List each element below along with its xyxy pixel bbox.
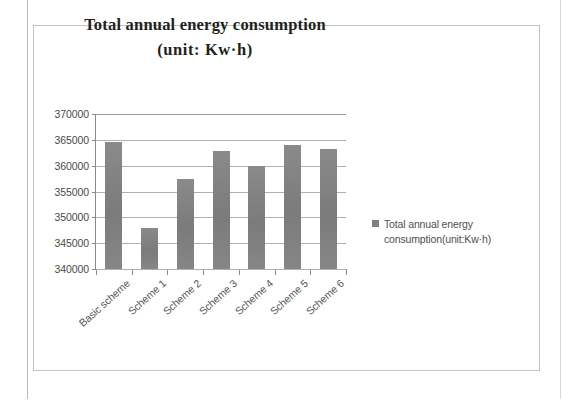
x-axis-tick bbox=[96, 270, 97, 275]
legend-swatch-icon bbox=[372, 220, 379, 227]
y-axis-tick bbox=[92, 166, 96, 167]
y-axis-tick bbox=[92, 192, 96, 193]
y-axis-tick bbox=[92, 140, 96, 141]
scanned-page: 3700003650003600003550003500003450003400… bbox=[0, 0, 562, 401]
chart-legend: Total annual energy consumption(unit:Kw·… bbox=[372, 217, 532, 246]
x-axis-labels: Basic schemeScheme 1Scheme 2Scheme 3Sche… bbox=[96, 277, 356, 367]
chart-title-line2: (unit: Kw·h) bbox=[45, 37, 365, 62]
y-axis-tick bbox=[92, 217, 96, 218]
gridline bbox=[96, 114, 346, 115]
y-axis-tick-label: 355000 bbox=[55, 186, 89, 198]
y-axis-tick-label: 360000 bbox=[55, 160, 89, 172]
chart-frame: 3700003650003600003550003500003450003400… bbox=[33, 25, 540, 371]
y-axis-tick-label: 350000 bbox=[55, 211, 89, 223]
chart-title: Total annual energy consumption (unit: K… bbox=[45, 12, 365, 62]
y-axis-tick-label: 370000 bbox=[55, 108, 89, 120]
y-axis-tick bbox=[92, 243, 96, 244]
gridline bbox=[96, 140, 346, 141]
y-axis-tick-label: 365000 bbox=[55, 134, 89, 146]
y-axis-tick-label: 345000 bbox=[55, 237, 89, 249]
chart-title-line1: Total annual energy consumption bbox=[84, 15, 326, 34]
x-axis-label-text: Basic scheme bbox=[76, 277, 132, 329]
y-axis-tick bbox=[92, 114, 96, 115]
y-axis-tick-label: 340000 bbox=[55, 263, 89, 275]
legend-label: Total annual energy consumption(unit:Kw·… bbox=[384, 217, 532, 246]
plot-area: 3700003650003600003550003500003450003400… bbox=[96, 114, 346, 269]
bar bbox=[105, 142, 122, 269]
